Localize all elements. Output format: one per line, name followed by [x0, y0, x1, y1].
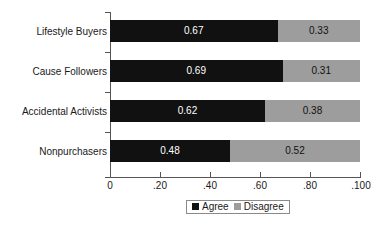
x-axis-line	[110, 177, 361, 178]
bar-value-label: 0.67	[110, 20, 278, 42]
x-axis-tick	[110, 172, 111, 177]
x-axis-tick	[360, 172, 361, 177]
stacked-bar-chart: Lifestyle Buyers Cause Followers Acciden…	[0, 0, 391, 229]
bar-segment-disagree: 0.33	[278, 20, 361, 42]
bar-value-label: 0.69	[110, 60, 283, 82]
x-axis-tick-label: 0	[90, 180, 130, 192]
y-axis-tick	[105, 12, 110, 13]
bar-segment-agree: 0.67	[110, 20, 278, 42]
bar-value-label: 0.38	[265, 100, 360, 122]
x-axis-tick-label: .100	[341, 180, 381, 192]
x-axis-tick	[210, 172, 211, 177]
bar-segment-disagree: 0.38	[265, 100, 360, 122]
legend-item-agree: Agree	[192, 202, 229, 212]
bar-value-label: 0.62	[110, 100, 265, 122]
bar-value-label: 0.48	[110, 140, 230, 162]
x-axis-tick-label: .20	[140, 180, 180, 192]
bar-segment-agree: 0.48	[110, 140, 230, 162]
bar-value-label: 0.33	[278, 20, 361, 42]
legend-item-disagree: Disagree	[234, 202, 284, 212]
x-axis-tick	[260, 172, 261, 177]
table-row: 0.67 0.33	[110, 20, 360, 42]
legend-swatch-icon	[234, 203, 241, 210]
category-label-cause-followers: Cause Followers	[0, 66, 107, 77]
x-axis-tick-label: .60	[240, 180, 280, 192]
legend-label: Disagree	[244, 202, 284, 212]
bar-segment-agree: 0.62	[110, 100, 265, 122]
y-axis-tick	[105, 132, 110, 133]
y-axis-tick	[105, 92, 110, 93]
x-axis-tick-label: .40	[190, 180, 230, 192]
x-axis-tick	[310, 172, 311, 177]
category-label-accidental-activists: Accidental Activists	[0, 106, 107, 117]
bar-segment-disagree: 0.31	[283, 60, 361, 82]
table-row: 0.69 0.31	[110, 60, 360, 82]
table-row: 0.48 0.52	[110, 140, 360, 162]
bar-value-label: 0.31	[283, 60, 361, 82]
legend: Agree Disagree	[186, 200, 290, 214]
category-label-lifestyle-buyers: Lifestyle Buyers	[0, 26, 107, 37]
bar-value-label: 0.52	[230, 140, 360, 162]
bar-segment-agree: 0.69	[110, 60, 283, 82]
category-label-nonpurchasers: Nonpurchasers	[0, 146, 107, 157]
x-axis-tick-label: .80	[290, 180, 330, 192]
table-row: 0.62 0.38	[110, 100, 360, 122]
x-axis-tick	[160, 172, 161, 177]
bar-segment-disagree: 0.52	[230, 140, 360, 162]
y-axis-tick	[105, 52, 110, 53]
legend-label: Agree	[202, 202, 229, 212]
legend-swatch-icon	[192, 203, 199, 210]
